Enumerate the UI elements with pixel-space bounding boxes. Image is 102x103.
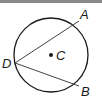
label-d: D [2,56,11,71]
center-point [49,53,53,57]
geometry-diagram: A B D C [0,0,102,103]
label-b: B [81,84,90,99]
label-c: C [56,48,66,63]
label-a: A [79,7,89,22]
chord-db [15,63,79,86]
chord-da [15,21,79,63]
